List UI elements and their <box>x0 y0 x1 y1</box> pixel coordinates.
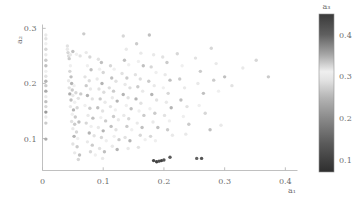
data-point <box>208 128 211 131</box>
data-point <box>195 157 198 160</box>
data-point <box>115 148 118 151</box>
data-point <box>77 120 80 123</box>
data-point <box>100 136 103 139</box>
data-point <box>73 100 76 103</box>
data-point <box>154 139 157 142</box>
data-point <box>44 48 47 51</box>
data-point <box>71 113 74 116</box>
data-point <box>214 62 217 65</box>
data-point <box>99 116 102 119</box>
data-point <box>71 142 74 145</box>
data-point <box>98 97 101 100</box>
data-point <box>140 126 143 129</box>
data-point <box>44 64 47 67</box>
data-point <box>103 150 106 153</box>
data-point <box>44 95 47 98</box>
data-point <box>75 106 78 109</box>
data-point <box>120 72 123 75</box>
data-point <box>212 78 215 81</box>
data-point <box>83 104 86 107</box>
data-point <box>139 134 142 137</box>
data-point <box>152 159 155 162</box>
data-point <box>71 88 74 91</box>
data-point <box>44 105 47 108</box>
data-point <box>68 70 71 73</box>
data-point <box>161 55 164 58</box>
y-tick-label: 0.1 <box>24 135 37 144</box>
data-point <box>139 77 142 80</box>
data-point <box>129 107 132 110</box>
data-point <box>44 33 47 36</box>
data-point <box>151 120 154 123</box>
data-point <box>197 104 200 107</box>
data-point <box>180 64 183 67</box>
data-point <box>219 124 222 127</box>
data-point <box>114 80 117 83</box>
data-point <box>44 100 47 103</box>
data-point <box>114 108 117 111</box>
data-point <box>75 130 78 133</box>
data-point <box>137 109 140 112</box>
data-point <box>200 157 203 160</box>
data-point <box>91 143 94 146</box>
data-point <box>187 123 190 126</box>
data-point <box>44 53 47 56</box>
data-point <box>162 158 165 161</box>
data-point <box>66 44 69 47</box>
data-point <box>122 114 125 117</box>
data-point <box>163 114 166 117</box>
data-point <box>88 107 91 110</box>
data-point <box>125 104 128 107</box>
data-point <box>153 84 156 87</box>
data-point <box>179 98 182 101</box>
data-point <box>153 112 156 115</box>
data-point <box>86 64 89 67</box>
data-point <box>44 137 47 140</box>
data-point <box>85 84 88 87</box>
data-point <box>123 59 126 62</box>
data-point <box>77 97 80 100</box>
data-point <box>123 83 126 86</box>
data-point <box>152 53 155 56</box>
data-point <box>77 158 80 161</box>
data-point <box>136 85 139 88</box>
data-point <box>100 61 103 64</box>
y-axis-title: a₂ <box>15 36 24 44</box>
data-point <box>89 68 92 71</box>
data-point <box>156 126 159 129</box>
data-point <box>101 157 104 160</box>
data-point <box>74 115 77 118</box>
data-point <box>210 46 213 49</box>
colorbar-tick-label: 0.4 <box>339 31 352 40</box>
data-point <box>89 150 92 153</box>
data-point <box>128 139 131 142</box>
data-point <box>185 105 188 108</box>
data-point <box>44 80 47 83</box>
x-tick-label: 0.2 <box>158 177 171 186</box>
data-point <box>86 114 89 117</box>
data-point <box>69 105 72 108</box>
data-point <box>183 86 186 89</box>
x-tick-label: 0.3 <box>218 177 231 186</box>
data-point <box>108 86 111 89</box>
data-point <box>126 96 129 99</box>
colorbar-ticks: 0.10.20.30.4 <box>339 31 352 165</box>
x-tick-label: 0.1 <box>97 177 110 186</box>
data-point <box>143 138 146 141</box>
data-point <box>139 51 142 54</box>
data-point <box>148 33 151 36</box>
data-point <box>112 67 115 70</box>
data-point <box>103 100 106 103</box>
data-point <box>223 75 226 78</box>
data-point <box>88 79 91 82</box>
data-point <box>74 91 77 94</box>
data-point <box>114 128 117 131</box>
data-point <box>117 118 120 121</box>
data-point <box>168 119 171 122</box>
data-point <box>230 84 233 87</box>
data-point <box>111 96 114 99</box>
data-point <box>139 102 142 105</box>
data-point <box>85 121 88 124</box>
data-point <box>165 100 168 103</box>
data-point <box>149 135 152 138</box>
